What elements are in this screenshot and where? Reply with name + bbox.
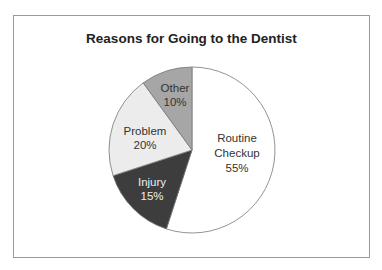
pie-chart: Routine Checkup 55% Injury 15% Problem 2… (0, 0, 382, 270)
svg-text:Problem: Problem (124, 125, 167, 137)
svg-text:Other: Other (161, 82, 190, 94)
svg-text:55%: 55% (225, 162, 248, 174)
svg-text:15%: 15% (140, 190, 163, 202)
svg-text:20%: 20% (133, 139, 156, 151)
svg-text:10%: 10% (163, 96, 186, 108)
svg-text:Checkup: Checkup (214, 147, 259, 159)
svg-text:Routine: Routine (217, 132, 257, 144)
svg-text:Injury: Injury (138, 176, 166, 188)
